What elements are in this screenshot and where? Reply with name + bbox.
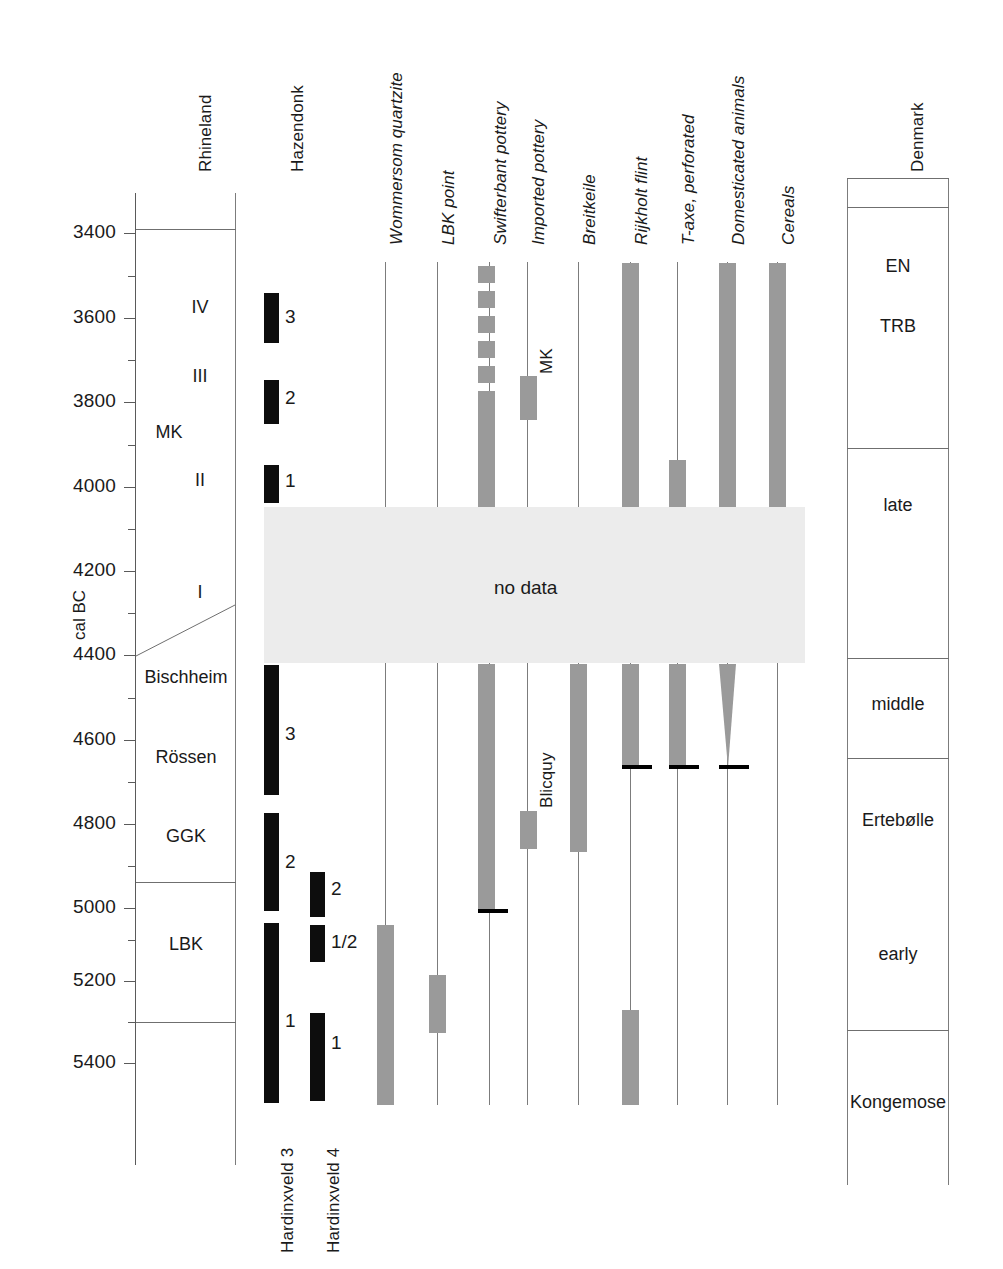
y-tick-5100 (128, 940, 136, 941)
hardinxveld4-bar-12 (310, 925, 325, 962)
y-tick-5200 (124, 981, 136, 982)
y-tick-4400 (124, 655, 136, 656)
rhineland-label-ggk: GGK (136, 826, 236, 847)
rhineland-label-lbk: LBK (136, 934, 236, 955)
hazendonk-bar-3-label: 3 (285, 306, 296, 328)
taxe-bar-top (669, 460, 686, 508)
chronology-chart: cal BC 3400 3600 3800 4000 4200 4400 460… (0, 0, 1003, 1269)
y-tick-4200 (124, 571, 136, 572)
hardinxveld3-bar-3-label: 3 (285, 723, 296, 745)
y-axis-title: cal BC (70, 590, 90, 640)
y-ticklabel-3400: 3400 (44, 221, 116, 243)
no-data-label: no data (494, 577, 557, 599)
rhineland-label-i: I (175, 582, 225, 603)
hardinxveld3-bar-2-label: 2 (285, 851, 296, 873)
column-header-taxe-perforated: T-axe, perforated (679, 114, 699, 245)
rhineland-label-bischheim: Bischheim (136, 667, 236, 688)
imported-pottery-mk-label: MK (537, 348, 557, 374)
lbk-point-bar (429, 975, 446, 1033)
imported-pottery-blicquy-bar (520, 811, 537, 849)
column-header-rhineland: Rhineland (196, 95, 216, 172)
imported-pottery-mk-bar (520, 376, 537, 420)
swifterbant-terminator (478, 909, 508, 913)
rijkholt-flint-bar-middle (622, 664, 639, 767)
rhineland-divider-lbk-bottom (136, 1022, 236, 1023)
rijkholt-flint-bar-top (622, 263, 639, 508)
imported-pottery-blicquy-label: Blicquy (537, 752, 557, 808)
y-ticklabel-4800: 4800 (44, 812, 116, 834)
hardinxveld3-bar-1 (264, 923, 279, 1103)
hardinxveld3-bar-3 (264, 665, 279, 795)
y-tick-4100 (128, 529, 136, 530)
column-header-breitkeile: Breitkeile (580, 174, 600, 245)
swifterbant-segment-4 (478, 341, 495, 358)
hazendonk-bar-1 (264, 465, 279, 503)
hazendonk-bar-2 (264, 380, 279, 424)
swifterbant-bar-middle (478, 664, 495, 911)
y-tick-5400 (124, 1063, 136, 1064)
y-ticklabel-3800: 3800 (44, 390, 116, 412)
rijkholt-flint-terminator (622, 765, 652, 769)
denmark-divider-top (847, 178, 949, 179)
domesticated-animals-terminator (719, 765, 749, 769)
hardinxveld4-bar-2-label: 2 (331, 878, 342, 900)
y-ticklabel-4600: 4600 (44, 728, 116, 750)
denmark-label-en: EN (847, 256, 949, 277)
hazendonk-footer-hardinxveld3: Hardinxveld 3 (278, 1148, 298, 1253)
y-tick-5300 (128, 1022, 136, 1023)
denmark-divider-en-late (847, 448, 949, 449)
denmark-divider-ertebolle-kongemose (847, 1030, 949, 1031)
column-header-domesticated-animals: Domesticated animals (729, 76, 749, 245)
column-header-hazendonk: Hazendonk (288, 85, 308, 172)
denmark-label-middle: middle (847, 694, 949, 715)
y-tick-3800 (124, 402, 136, 403)
denmark-label-kongemose: Kongemose (847, 1092, 949, 1113)
hazendonk-bar-2-label: 2 (285, 387, 296, 409)
rhineland-label-iv: IV (175, 297, 225, 318)
y-tick-4500 (128, 698, 136, 699)
hardinxveld3-bar-2 (264, 813, 279, 911)
y-ticklabel-4200: 4200 (44, 559, 116, 581)
column-header-rijkholt-flint: Rijkholt flint (632, 157, 652, 245)
rhineland-divider-mk-top (136, 229, 236, 230)
domesticated-animals-wedge-middle (719, 664, 737, 768)
swifterbant-segment-3 (478, 316, 495, 333)
denmark-label-trb: TRB (847, 316, 949, 337)
taxe-terminator (669, 765, 699, 769)
column-header-lbk-point: LBK point (439, 170, 459, 245)
column-header-swifterbant-pottery: Swifterbant pottery (491, 101, 511, 245)
y-tick-3900 (128, 445, 136, 446)
y-tick-4800 (124, 824, 136, 825)
rijkholt-flint-bar-lower (622, 1010, 639, 1105)
cereals-bar-top (769, 263, 786, 508)
rhineland-label-ii: II (175, 470, 225, 491)
denmark-label-late: late (847, 495, 949, 516)
y-tick-3500 (128, 276, 136, 277)
column-header-cereals: Cereals (779, 186, 799, 245)
y-tick-4600 (124, 740, 136, 741)
wommersom-quartzite-bar (377, 925, 394, 1105)
y-ticklabel-5400: 5400 (44, 1051, 116, 1073)
swifterbant-segment-main-top (478, 391, 495, 508)
y-tick-4700 (128, 782, 136, 783)
swifterbant-segment-5 (478, 366, 495, 383)
hardinxveld4-bar-1-label: 1 (331, 1032, 342, 1054)
y-tick-3600 (124, 318, 136, 319)
hazendonk-footer-hardinxveld4: Hardinxveld 4 (324, 1148, 344, 1253)
swifterbant-segment-2 (478, 291, 495, 308)
swifterbant-segment-1 (478, 266, 495, 283)
y-tick-3400 (124, 233, 136, 234)
column-header-wommersom-quartzite: Wommersom quartzite (387, 72, 407, 245)
y-ticklabel-5200: 5200 (44, 969, 116, 991)
denmark-label-early: early (847, 944, 949, 965)
denmark-label-ertebolle: Ertebølle (847, 810, 949, 831)
y-tick-5000 (124, 908, 136, 909)
y-tick-4000 (124, 487, 136, 488)
y-ticklabel-5000: 5000 (44, 896, 116, 918)
rhineland-label-iii: III (175, 366, 225, 387)
y-ticklabel-3600: 3600 (44, 306, 116, 328)
denmark-divider-en-top (847, 207, 949, 208)
breitkeile-bar-middle (570, 664, 587, 852)
hardinxveld4-bar-12-label: 1/2 (331, 931, 357, 953)
domesticated-animals-bar-top (719, 263, 736, 508)
